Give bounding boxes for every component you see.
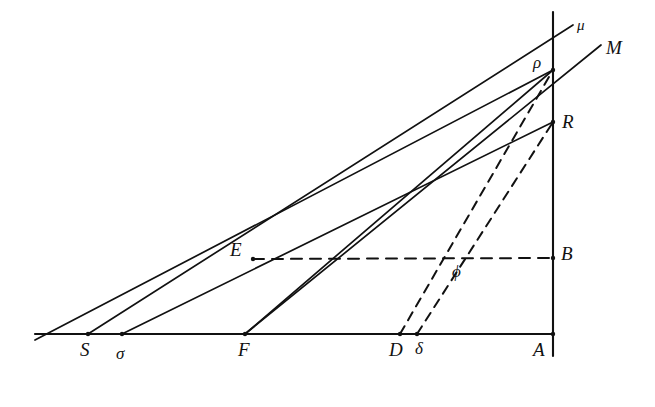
point-label-delta: δ	[415, 340, 423, 357]
segment-delta-to-R	[417, 122, 553, 334]
vertex-sigma	[120, 332, 124, 336]
vertex-F	[243, 332, 247, 336]
segment-E-to-B-dashed	[253, 258, 553, 259]
segment-F-to-rho	[245, 70, 553, 334]
point-label-B: B	[561, 244, 573, 263]
point-label-D: D	[389, 340, 403, 359]
geometry-figure: SσFDδAEBϕρRμM	[0, 0, 655, 407]
segment-F-to-R-M	[245, 45, 601, 334]
point-label-M: M	[606, 38, 622, 57]
point-label-rho: ρ	[533, 54, 541, 71]
vertex-rho	[551, 68, 555, 72]
point-label-mu: μ	[577, 18, 585, 33]
point-label-S: S	[80, 340, 90, 359]
vertex-A	[551, 332, 555, 336]
figure-canvas	[0, 0, 655, 407]
vertex-delta	[415, 332, 419, 336]
vertex-B	[551, 256, 555, 260]
point-label-F: F	[238, 340, 250, 359]
segment-S-to-rho-mu	[88, 25, 573, 334]
segment-sigma-to-R	[122, 122, 553, 334]
point-label-R: R	[562, 112, 574, 131]
point-label-sigma: σ	[116, 345, 124, 362]
vertex-R	[551, 120, 555, 124]
point-label-phi: ϕ	[452, 263, 461, 280]
vertex-S	[86, 332, 90, 336]
point-label-A: A	[533, 340, 545, 359]
vertex-D	[398, 332, 402, 336]
point-label-E: E	[230, 240, 242, 259]
vertex-E	[251, 257, 255, 261]
